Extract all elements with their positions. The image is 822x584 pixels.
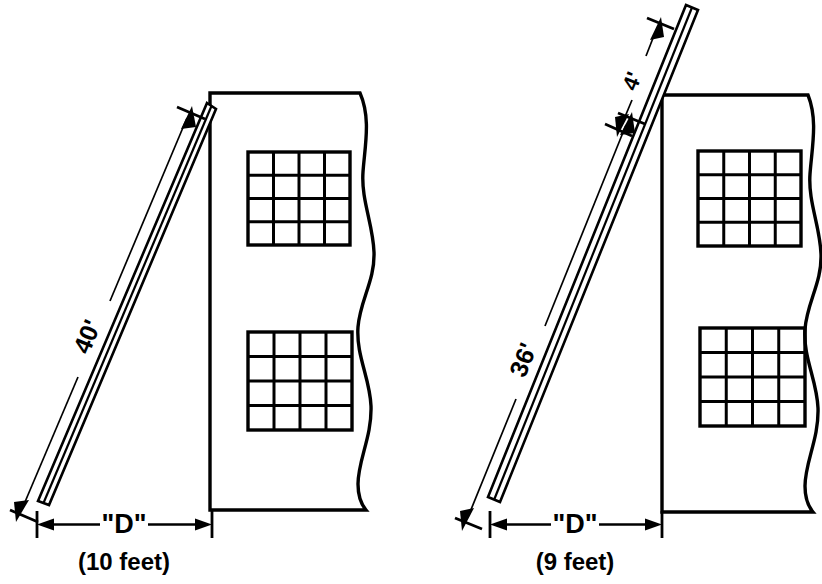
panel-right: 4' 36' — [455, 5, 821, 575]
ladder-diagram-figure: 40' "D" (10 feet) — [0, 0, 822, 584]
building-outline-right — [662, 95, 821, 512]
base-distance-value-left: (10 feet) — [78, 548, 170, 575]
dimension-base-distance-right: "D" — [490, 509, 662, 539]
dimension-ladder-length-left: 40' — [10, 106, 205, 522]
panel-left: 40' "D" (10 feet) — [10, 93, 374, 575]
ladder-extension-label-right: 4' — [617, 68, 647, 94]
base-distance-symbol-right: "D" — [552, 509, 597, 539]
diagram-canvas: 40' "D" (10 feet) — [0, 0, 822, 584]
base-distance-symbol-left: "D" — [101, 509, 146, 539]
dimension-base-distance-left: "D" — [37, 509, 212, 539]
ladder-left — [38, 103, 216, 505]
base-distance-value-right: (9 feet) — [536, 548, 615, 575]
